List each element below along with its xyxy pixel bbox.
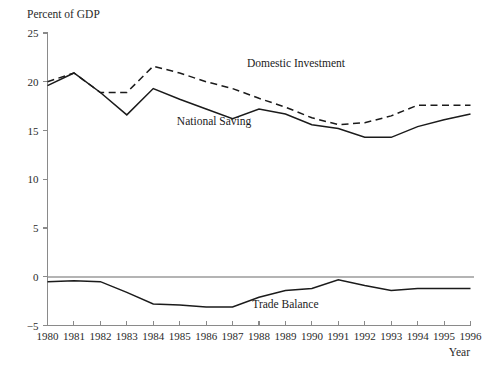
x-tick-label: 1984 <box>142 330 165 342</box>
y-tick-label: 10 <box>28 173 40 185</box>
y-tick-label: 5 <box>33 222 39 234</box>
x-tick-label: 1981 <box>63 330 85 342</box>
x-tick-label: 1996 <box>460 330 483 342</box>
x-tick-label: 1982 <box>89 330 111 342</box>
x-tick-label: 1980 <box>37 330 60 342</box>
x-tick-label: 1990 <box>301 330 324 342</box>
x-axis-caption: Year <box>449 346 470 358</box>
x-tick-label: 1993 <box>380 330 403 342</box>
line-chart-canvas: Percent of GDP Year −50510152025 1980198… <box>0 0 494 369</box>
x-tick-label: 1994 <box>407 330 430 342</box>
y-tick-label: 0 <box>33 271 39 283</box>
axis-group <box>48 33 471 326</box>
x-tick-label: 1989 <box>274 330 297 342</box>
series-line-national-saving <box>48 73 471 137</box>
series-group <box>48 66 471 307</box>
chart-figure: Percent of GDP Year −50510152025 1980198… <box>0 0 494 369</box>
x-tick-label: 1985 <box>169 330 192 342</box>
x-tick-label: 1986 <box>195 330 218 342</box>
series-label-trade-balance: Trade Balance <box>252 298 318 310</box>
x-tick-label: 1988 <box>248 330 271 342</box>
series-label-domestic-investment: Domestic Investment <box>247 57 346 69</box>
y-tick-label: 25 <box>28 27 40 39</box>
series-label-national-saving: National Saving <box>177 115 252 128</box>
y-tick-label: 15 <box>28 125 40 137</box>
x-tick-label: 1991 <box>327 330 349 342</box>
x-tick-label: 1995 <box>433 330 456 342</box>
y-tick-label: 20 <box>28 76 40 88</box>
x-tick-group: 1980198119821983198419851986198719881989… <box>37 321 483 342</box>
x-tick-label: 1987 <box>222 330 245 342</box>
x-tick-label: 1983 <box>116 330 139 342</box>
series-line-domestic-investment <box>48 66 471 125</box>
series-annotation-group: Domestic InvestmentNational SavingTrade … <box>177 57 346 310</box>
x-tick-label: 1992 <box>354 330 376 342</box>
y-tick-group: −50510152025 <box>27 27 48 332</box>
y-axis-caption: Percent of GDP <box>27 8 100 20</box>
